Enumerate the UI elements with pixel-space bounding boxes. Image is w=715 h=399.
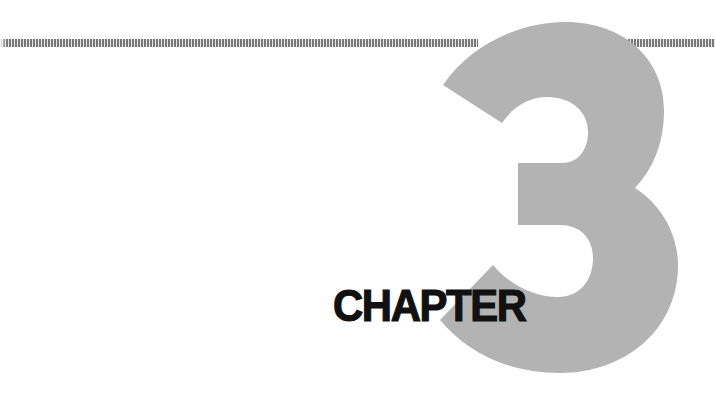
chapter-opener-page: CHAPTER	[0, 0, 715, 399]
chapter-label: CHAPTER	[333, 283, 526, 328]
chapter-number-3-graphic	[0, 0, 715, 399]
